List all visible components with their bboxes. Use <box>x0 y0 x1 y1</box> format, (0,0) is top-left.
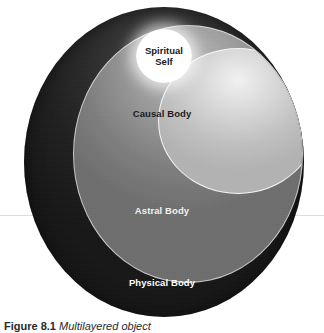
concentric-spheres-diagram: Spiritual Self Causal Body Astral Body P… <box>0 0 324 320</box>
figure-caption-title: Multilayered object <box>59 320 151 332</box>
layer-spiritual-self: Spiritual Self <box>136 29 192 83</box>
label-spiritual-self-line2: Self <box>155 56 172 67</box>
figure-caption: Figure 8.1 Multilayered object <box>4 320 320 333</box>
figure-caption-label: Figure 8.1 <box>4 320 56 332</box>
label-spiritual-self-line1: Spiritual <box>145 45 183 56</box>
label-spiritual-self: Spiritual Self <box>145 45 183 67</box>
figure-container: Spiritual Self Causal Body Astral Body P… <box>0 0 324 333</box>
